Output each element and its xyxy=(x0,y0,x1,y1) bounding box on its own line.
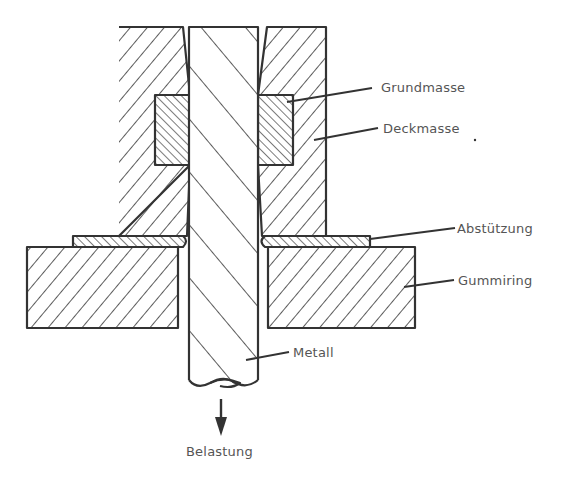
grundmasse-left-insert xyxy=(155,95,190,165)
abstuetzung-right-strip xyxy=(262,236,371,247)
label-gummiring: Gummiring xyxy=(458,273,533,288)
gummiring-right-base xyxy=(268,247,415,328)
pullout-test-diagram: Grundmasse Deckmasse Abstützung Gummirin… xyxy=(0,0,565,480)
leader-abstuetzung xyxy=(370,228,455,239)
gummiring-left-base xyxy=(27,247,178,328)
label-deckmasse: Deckmasse xyxy=(383,121,460,136)
label-belastung: Belastung xyxy=(186,444,253,459)
grundmasse-right-insert xyxy=(258,95,293,165)
label-metall: Metall xyxy=(293,345,334,360)
stray-dot xyxy=(474,139,476,141)
abstuetzung-left-strip xyxy=(73,236,186,247)
label-abstuetzung: Abstützung xyxy=(457,221,533,236)
metal-rod xyxy=(189,27,258,387)
load-arrow-icon xyxy=(215,399,227,436)
label-grundmasse: Grundmasse xyxy=(381,80,465,95)
